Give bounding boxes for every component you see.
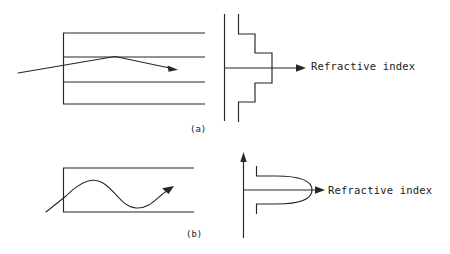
profile-a-axis-arrowhead [296,64,306,71]
panel-a-fibre-group [63,33,205,104]
panel-a-profile-group [224,14,306,122]
panel-b-profile-group [240,152,325,238]
figure-canvas: Refractive index Refractive index (a) (b… [0,0,450,254]
profile-b-vertical-axis-arrowhead [240,152,246,162]
ray-path-a-outgoing-segment [115,57,172,69]
panel-a-axis-label: Refractive index [311,60,415,72]
panel-b-ray-group [46,180,174,212]
panel-b-caption: (b) [186,229,202,239]
ray-a-arrowhead [168,65,179,71]
profile-b-axis-arrowhead [315,186,325,193]
panel-a-caption: (a) [190,124,206,134]
panel-a-ray-group [18,57,178,74]
optical-fibre-diagram-svg [0,0,450,254]
panel-b-axis-label: Refractive index [328,184,432,196]
ray-path-a-incoming-segment [18,57,115,74]
ray-path-b-sinusoid [46,180,168,212]
